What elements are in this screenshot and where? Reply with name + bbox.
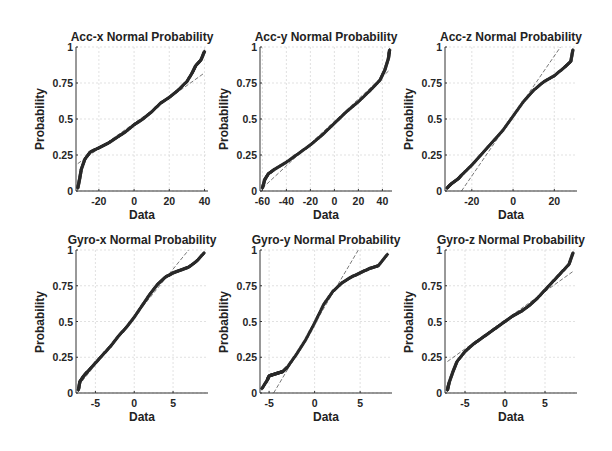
x-tick-label: -20 xyxy=(91,195,106,207)
y-tick-label: 0 xyxy=(436,387,442,399)
x-tick-label: 20 xyxy=(548,195,560,207)
subplot-title: Gyro-z Normal Probability xyxy=(437,233,585,247)
x-tick-label: -60 xyxy=(255,195,270,207)
y-axis-label: Probability xyxy=(33,290,47,352)
y-tick-label: 0.5 xyxy=(242,113,257,125)
grid xyxy=(260,47,392,191)
x-tick-label: 0 xyxy=(510,195,516,207)
y-tick-label: 0.25 xyxy=(422,149,442,161)
y-tick-label: 0 xyxy=(436,185,442,197)
plot-area xyxy=(76,47,208,191)
x-tick-label: 5 xyxy=(357,397,363,409)
y-tick-label: 0 xyxy=(67,185,73,197)
x-tick-label: -5 xyxy=(460,397,469,409)
plot-area xyxy=(76,250,208,393)
x-tick-label: -5 xyxy=(91,397,100,409)
y-tick-label: 0.5 xyxy=(427,316,442,328)
y-axis-label: Probability xyxy=(217,290,231,352)
y-tick-label: 0.25 xyxy=(53,149,73,161)
x-tick-label: 0 xyxy=(502,397,508,409)
y-tick-label: 0.5 xyxy=(58,316,73,328)
subplot-acc-x: Acc-x Normal Probability00.250.50.751-20… xyxy=(76,47,208,191)
y-tick-label: 0.75 xyxy=(237,77,257,89)
plot-area xyxy=(445,250,577,393)
grid xyxy=(445,250,577,393)
y-tick-label: 1 xyxy=(436,41,442,53)
y-tick-label: 1 xyxy=(67,244,73,256)
grid xyxy=(76,250,208,393)
y-tick-label: 0.75 xyxy=(422,77,442,89)
x-tick-label: -20 xyxy=(464,195,479,207)
y-tick-label: 0.75 xyxy=(422,280,442,292)
data-markers xyxy=(445,48,574,189)
y-tick-label: 0.75 xyxy=(53,77,73,89)
y-tick-label: 0.25 xyxy=(422,351,442,363)
subplot-acc-z: Acc-z Normal Probability00.250.50.751-20… xyxy=(445,47,577,191)
subplot-title: Gyro-x Normal Probability xyxy=(68,233,217,247)
x-axis-label: Data xyxy=(129,410,155,424)
y-tick-label: 0.75 xyxy=(53,280,73,292)
y-tick-label: 0.5 xyxy=(58,113,73,125)
x-tick-label: 0 xyxy=(312,397,318,409)
x-axis-label: Data xyxy=(313,410,339,424)
y-tick-label: 0 xyxy=(251,387,257,399)
y-tick-label: 0.5 xyxy=(427,113,442,125)
x-tick-label: 40 xyxy=(377,195,389,207)
x-axis-label: Data xyxy=(313,208,339,222)
x-tick-label: -20 xyxy=(303,195,318,207)
plot-area xyxy=(260,250,392,393)
subplot-gyro-y: Gyro-y Normal Probability00.250.50.751-5… xyxy=(260,250,392,393)
subplot-acc-y: Acc-y Normal Probability00.250.50.751-60… xyxy=(260,47,392,191)
y-axis-label: Probability xyxy=(402,290,416,352)
x-axis-label: Data xyxy=(498,410,524,424)
y-tick-label: 1 xyxy=(251,41,257,53)
subplot-title: Acc-y Normal Probability xyxy=(255,30,398,44)
y-axis-label: Probability xyxy=(217,88,231,150)
x-tick-label: 5 xyxy=(542,397,548,409)
plot-area xyxy=(445,47,577,191)
subplot-title: Acc-x Normal Probability xyxy=(71,30,214,44)
y-tick-label: 0.5 xyxy=(242,316,257,328)
reference-line xyxy=(262,70,389,188)
x-tick-label: 0 xyxy=(331,195,337,207)
x-tick-label: -5 xyxy=(264,397,273,409)
plot-area xyxy=(260,47,392,191)
y-tick-label: 1 xyxy=(251,244,257,256)
subplot-title: Acc-z Normal Probability xyxy=(440,30,582,44)
y-tick-label: 0.75 xyxy=(237,280,257,292)
data-markers xyxy=(76,50,206,190)
x-tick-label: -40 xyxy=(279,195,294,207)
x-tick-label: 40 xyxy=(199,195,211,207)
y-tick-label: 0 xyxy=(67,387,73,399)
subplot-gyro-x: Gyro-x Normal Probability00.250.50.751-5… xyxy=(76,250,208,393)
y-axis-label: Probability xyxy=(33,88,47,150)
y-tick-label: 0.25 xyxy=(237,351,257,363)
y-tick-label: 1 xyxy=(436,244,442,256)
subplot-gyro-z: Gyro-z Normal Probability00.250.50.751-5… xyxy=(445,250,577,393)
x-tick-label: 20 xyxy=(353,195,365,207)
y-tick-label: 0.25 xyxy=(53,351,73,363)
y-tick-label: 1 xyxy=(67,41,73,53)
y-tick-label: 0.25 xyxy=(237,149,257,161)
subplot-title: Gyro-y Normal Probability xyxy=(252,233,401,247)
y-axis-label: Probability xyxy=(402,88,416,150)
x-tick-label: 0 xyxy=(131,397,137,409)
x-axis-label: Data xyxy=(498,208,524,222)
x-tick-label: 0 xyxy=(131,195,137,207)
x-axis-label: Data xyxy=(129,208,155,222)
x-tick-label: 20 xyxy=(163,195,175,207)
x-tick-label: 5 xyxy=(170,397,176,409)
